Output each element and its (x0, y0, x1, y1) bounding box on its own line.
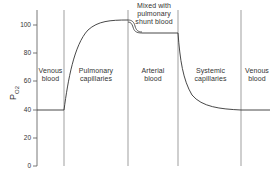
label-venous-blood-right: Venous blood (241, 67, 273, 83)
label-venous-blood-left: Venous blood (37, 67, 64, 83)
tick-40: 40 (11, 106, 31, 113)
tick-60: 60 (11, 77, 31, 84)
label-line: Arterial (128, 67, 178, 75)
label-line: capillaries (180, 75, 241, 83)
po2-diagram (0, 0, 277, 176)
label-arterial-blood: Arterial blood (128, 67, 178, 83)
y-axis-label-sub: O2 (14, 86, 20, 94)
tick-100: 100 (11, 21, 31, 28)
label-mixed-shunt-blood: Mixed with pulmonary shunt blood (130, 2, 178, 26)
y-ticks (33, 25, 37, 166)
label-line: Mixed with (130, 2, 178, 10)
label-line: blood (37, 75, 64, 83)
label-line: Venous (241, 67, 273, 75)
label-line: Systemic (180, 67, 241, 75)
label-line: capillaries (64, 75, 128, 83)
tick-0: 0 (11, 162, 31, 169)
tick-20: 20 (11, 134, 31, 141)
label-line: Venous (37, 67, 64, 75)
label-line: Pulmonary (64, 67, 128, 75)
y-axis-label-main: P (8, 94, 18, 100)
label-line: shunt blood (130, 18, 178, 26)
label-line: pulmonary (130, 10, 178, 18)
label-line: blood (241, 75, 273, 83)
label-line: blood (128, 75, 178, 83)
label-systemic-capillaries: Systemic capillaries (180, 67, 241, 83)
tick-80: 80 (11, 49, 31, 56)
y-axis-label: PO2 (8, 86, 20, 100)
label-pulmonary-capillaries: Pulmonary capillaries (64, 67, 128, 83)
po2-curve (37, 20, 128, 110)
